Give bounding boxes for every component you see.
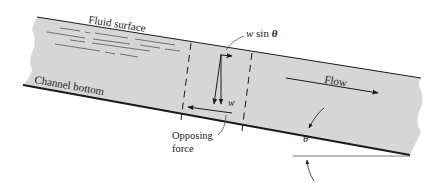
theta-lower-arrow	[307, 160, 314, 181]
opposing-force-label-line1: Opposing	[172, 130, 214, 141]
w-label: w	[228, 97, 235, 108]
w-sin-theta-label: w sin θ	[246, 27, 278, 39]
opposing-force-label-line2: force	[172, 143, 194, 154]
open-channel-flow-diagram: Fluid surface Channel bottom Flow w sin …	[0, 0, 443, 183]
theta-label: θ	[303, 132, 309, 144]
